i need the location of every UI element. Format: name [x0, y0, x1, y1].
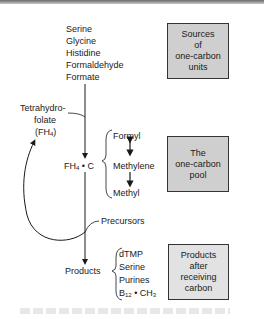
- folate-line1: Tetrahydro-: [20, 103, 66, 114]
- precursors-label: Precursors: [101, 216, 145, 227]
- pool-form-formyl: Formyl: [113, 131, 141, 142]
- sources-box: Sources of one-carbon units: [167, 23, 229, 79]
- folate-line2: folate: [34, 115, 56, 126]
- pool-form-methyl: Methyl: [113, 188, 140, 199]
- products-label: Products: [65, 266, 101, 277]
- source-item: Formate: [66, 72, 100, 83]
- product-item: Purines: [119, 275, 150, 286]
- source-item: Histidine: [66, 48, 101, 59]
- product-item-b12: B12 • CH3: [119, 288, 156, 301]
- source-item: Serine: [66, 24, 92, 35]
- product-item: dTMP: [119, 249, 143, 260]
- sources-box-label: Sources of one-carbon units: [175, 29, 221, 73]
- products-box: Products after receiving carbon: [168, 244, 229, 300]
- source-item: Glycine: [66, 36, 96, 47]
- pool-box: The one-carbon pool: [167, 136, 229, 192]
- pool-form-methylene: Methylene: [113, 161, 155, 172]
- truncated-caption: [20, 308, 230, 314]
- pool-box-label: The one-carbon pool: [175, 148, 221, 181]
- fh4-c-label: FH4 • C: [64, 161, 94, 174]
- source-item: Formaldehyde: [66, 60, 124, 71]
- products-box-label: Products after receiving carbon: [180, 250, 216, 294]
- folate-abbrev: (FH4): [35, 127, 56, 140]
- product-item: Serine: [119, 262, 145, 273]
